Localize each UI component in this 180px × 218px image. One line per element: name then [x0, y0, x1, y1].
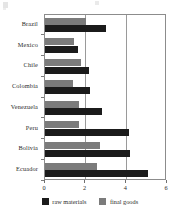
y-axis-tick: [41, 159, 44, 160]
y-axis-label-peru: Peru: [0, 124, 38, 131]
scan-artifact-icon: [95, 1, 99, 5]
bar-final-goods: [45, 142, 100, 149]
bar-group: [45, 77, 165, 98]
y-axis-label-brazil: Brazil: [0, 20, 38, 27]
bar-raw-materials: [45, 150, 130, 157]
legend-item: raw materials: [42, 198, 87, 205]
bar-final-goods: [45, 38, 74, 45]
bar-final-goods: [45, 101, 79, 108]
x-axis-tick-6: [166, 180, 167, 183]
bar-group: [45, 140, 165, 161]
x-axis-tick-0: [44, 180, 45, 183]
horizontal-grouped-bar-chart: BrazilMexicoChileColombiaVenezuelaPeruBo…: [0, 0, 180, 218]
scan-artifact-icon: [3, 8, 6, 10]
square-swatch-black: [42, 198, 49, 205]
square-swatch-gray: [99, 198, 106, 205]
legend-label: final goods: [110, 198, 138, 205]
x-axis-tick-label-2: 2: [78, 184, 92, 191]
bar-final-goods: [45, 18, 86, 25]
y-axis-label-bolivia: Bolivia: [0, 144, 38, 151]
bar-group: [45, 98, 165, 119]
bar-group: [45, 36, 165, 57]
bar-raw-materials: [45, 87, 90, 94]
bar-raw-materials: [45, 129, 129, 136]
x-axis-tick-label-6: 6: [159, 184, 173, 191]
y-axis-tick: [41, 55, 44, 56]
bar-group: [45, 57, 165, 78]
y-axis-label-venezuela: Venezuela: [0, 103, 38, 110]
y-axis-label-colombia: Colombia: [0, 82, 38, 89]
legend-item: final goods: [99, 198, 138, 205]
bar-final-goods: [45, 80, 73, 87]
bar-final-goods: [45, 59, 81, 66]
x-axis-tick-label-0: 0: [37, 184, 51, 191]
y-axis-label-mexico: Mexico: [0, 41, 38, 48]
bar-raw-materials: [45, 170, 148, 177]
legend-label: raw materials: [52, 198, 86, 205]
x-axis-tick-2: [84, 180, 85, 183]
y-axis-tick: [41, 97, 44, 98]
bar-group: [45, 15, 165, 36]
bar-raw-materials: [45, 25, 106, 32]
x-axis-tick-label-4: 4: [118, 184, 132, 191]
y-axis-tick: [41, 138, 44, 139]
chart-legend: raw materialsfinal goods: [0, 198, 180, 205]
y-axis-tick: [41, 76, 44, 77]
bar-raw-materials: [45, 108, 102, 115]
y-axis-label-ecuador: Ecuador: [0, 165, 38, 172]
x-axis-tick-4: [125, 180, 126, 183]
y-axis-tick: [41, 34, 44, 35]
bar-final-goods: [45, 121, 79, 128]
bar-group: [45, 160, 165, 181]
bar-raw-materials: [45, 46, 78, 53]
y-axis-label-chile: Chile: [0, 61, 38, 68]
plot-area: [44, 14, 166, 180]
bar-final-goods: [45, 163, 97, 170]
bar-group: [45, 119, 165, 140]
y-axis-tick: [41, 117, 44, 118]
bar-raw-materials: [45, 67, 89, 74]
